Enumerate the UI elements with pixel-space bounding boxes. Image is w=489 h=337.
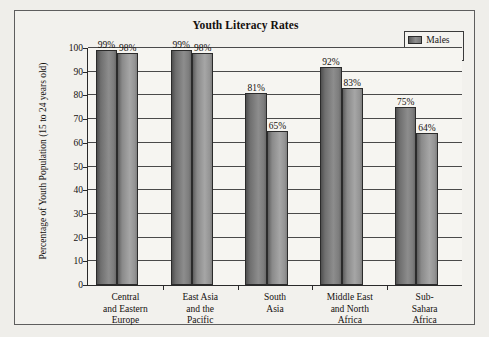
- bar-value-label: 64%: [418, 123, 435, 133]
- bars-layer: 99%99%81%92%75%98%98%65%83%64%: [88, 48, 462, 285]
- plot-area: 0102030405060708090100 99%99%81%92%75%98…: [87, 48, 462, 286]
- y-tick-label: 50: [74, 162, 84, 172]
- y-tick-label: 30: [74, 209, 84, 219]
- bar-females-5: 64%: [416, 133, 437, 285]
- x-category-label-3: SouthAsia: [264, 292, 286, 315]
- y-tick-label: 20: [74, 233, 84, 243]
- x-category-line: Middle East: [327, 292, 373, 304]
- bar-females-4: 83%: [342, 88, 363, 285]
- x-category-line: Sub-: [412, 292, 438, 304]
- x-category-line: Asia: [264, 304, 286, 316]
- plot-region: 0102030405060708090100 99%99%81%92%75%98…: [73, 48, 462, 286]
- bar-value-label: 65%: [269, 121, 286, 131]
- y-tick-label: 100: [69, 43, 83, 53]
- x-tick-mark: [312, 285, 313, 290]
- x-category-line: Europe: [103, 315, 148, 327]
- x-category-label-2: East Asiaand thePacific: [182, 292, 218, 327]
- x-category-line: and North: [327, 304, 373, 316]
- legend-item-males: Males: [408, 34, 458, 46]
- x-category-label-1: Centraland EasternEurope: [103, 292, 148, 327]
- x-category-line: Central: [103, 292, 148, 304]
- y-tick-label: 80: [74, 90, 84, 100]
- bar-males-1: 99%: [96, 50, 117, 285]
- x-category-line: South: [264, 292, 286, 304]
- x-category-line: Africa: [327, 315, 373, 327]
- bar-females-1: 98%: [117, 53, 138, 285]
- y-tick-label: 0: [78, 280, 83, 290]
- bar-males-2: 99%: [171, 50, 192, 285]
- chart-figure: Youth Literacy Rates Males Females Perce…: [14, 10, 475, 325]
- x-category-label-5: Sub-SaharaAfrica: [412, 292, 438, 327]
- bar-value-label: 98%: [119, 43, 136, 53]
- bar-value-label: 83%: [344, 78, 361, 88]
- y-tick-label: 90: [74, 67, 84, 77]
- x-category-line: East Asia: [182, 292, 218, 304]
- x-category-line: Africa: [412, 315, 438, 327]
- x-category-line: and Eastern: [103, 304, 148, 316]
- y-tick-label: 60: [74, 138, 84, 148]
- bar-value-label: 92%: [322, 57, 339, 67]
- x-tick-mark: [387, 285, 388, 290]
- bar-males-4: 92%: [320, 67, 341, 285]
- chart-title: Youth Literacy Rates: [15, 19, 476, 31]
- x-category-label-4: Middle Eastand NorthAfrica: [327, 292, 373, 327]
- bar-value-label: 99%: [173, 40, 190, 50]
- bar-value-label: 98%: [194, 43, 211, 53]
- y-axis-title: Percentage of Youth Population (15 to 24…: [36, 45, 50, 277]
- bar-males-5: 75%: [395, 107, 416, 285]
- y-tick-label: 10: [74, 256, 84, 266]
- bar-males-3: 81%: [245, 93, 266, 285]
- x-tick-mark: [238, 285, 239, 290]
- x-tick-mark: [163, 285, 164, 290]
- y-tick-label: 70: [74, 114, 84, 124]
- x-category-line: Pacific: [182, 315, 218, 327]
- bar-females-3: 65%: [267, 131, 288, 285]
- x-category-line: and the: [182, 304, 218, 316]
- bar-value-label: 75%: [397, 97, 414, 107]
- y-tick-mark: [83, 285, 88, 286]
- y-tick-label: 40: [74, 185, 84, 195]
- bar-value-label: 81%: [247, 83, 264, 93]
- bar-females-2: 98%: [192, 53, 213, 285]
- x-category-line: Sahara: [412, 304, 438, 316]
- legend-label-males: Males: [426, 35, 449, 46]
- legend-swatch-males-icon: [408, 36, 422, 44]
- bar-value-label: 99%: [98, 40, 115, 50]
